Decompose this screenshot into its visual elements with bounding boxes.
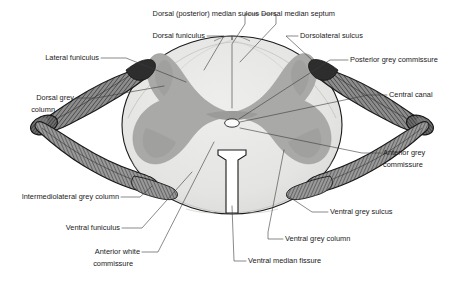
label-ventral-grey-column: Ventral grey column <box>285 234 350 243</box>
central-canal-lumen <box>225 119 240 127</box>
spinal-cord-figure: Dorsal (posterior) median sulcus Dorsal … <box>0 0 464 284</box>
label-dorsal-posterior-median-sulcus: Dorsal (posterior) median sulcus <box>153 9 260 18</box>
label-anterior-grey-commissure-line2: commissure <box>383 160 423 169</box>
label-ventral-median-fissure: Ventral median fissure <box>248 256 321 265</box>
label-anterior-white-commissure-line1: Anterior white <box>95 247 140 256</box>
label-ventral-funiculus: Ventral funiculus <box>66 223 121 232</box>
label-dorsolateral-sulcus: Dorsolateral sulcus <box>300 31 363 40</box>
label-posterior-grey-commissure: Posterior grey commissure <box>350 55 438 64</box>
label-dorsal-grey-column-line1: Dorsal grey <box>36 93 74 102</box>
label-anterior-grey-commissure-line1: Anterior grey <box>383 148 426 157</box>
label-intermediolateral-grey-column: Intermediolateral grey column <box>22 192 119 201</box>
label-dorsal-funiculus: Dorsal funiculus <box>152 31 205 40</box>
label-central-canal: Central canal <box>389 90 433 99</box>
label-dorsal-median-septum: Dorsal median septum <box>261 9 335 18</box>
label-lateral-funiculus: Lateral funiculus <box>45 53 99 62</box>
spinal-cord-diagram: Dorsal (posterior) median sulcus Dorsal … <box>0 0 464 284</box>
label-dorsal-grey-column-line2: column <box>31 105 55 114</box>
label-anterior-white-commissure-line2: commissure <box>93 259 133 268</box>
label-ventral-grey-sulcus: Ventral grey sulcus <box>330 207 393 216</box>
